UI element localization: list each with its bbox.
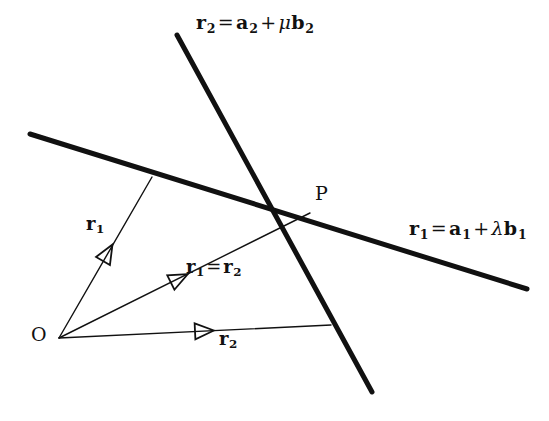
- equation-line1-a-sub: 1: [462, 227, 472, 242]
- diagram-canvas: [0, 0, 549, 421]
- vector-label-r1eq-sub1: 1: [195, 265, 204, 279]
- equation-line1-a: a: [449, 217, 462, 239]
- equation-line2-a: a: [236, 11, 249, 33]
- equation-line2-mu: μ: [278, 11, 291, 33]
- vector-label-r1eq-sym2: r: [223, 256, 232, 277]
- vector-label-r2: r2: [219, 330, 237, 351]
- equation-line2-b: b: [291, 11, 305, 33]
- equation-line1-b-sub: 1: [517, 227, 527, 242]
- vector-label-r1eq-sub2: 2: [233, 265, 242, 279]
- equation-line-r2: r2=a2+μb2: [196, 13, 314, 35]
- equation-line2-equals: =: [216, 11, 236, 33]
- ray-r1: [59, 177, 152, 338]
- vector-line-intersection-diagram: r2=a2+μb2 r1=a1+λb1 P O r1 r1=r2 r2: [0, 0, 549, 421]
- equation-line1-equals: =: [429, 217, 449, 239]
- point-label-O: O: [31, 325, 47, 344]
- equation-line2-b-sub: 2: [305, 21, 315, 36]
- vector-label-r1: r1: [86, 215, 104, 236]
- equation-line1-b: b: [504, 217, 518, 239]
- line-r2: [177, 35, 372, 392]
- vector-label-r1-sub: 1: [95, 222, 104, 236]
- equation-line1-r-sub: 1: [419, 227, 429, 242]
- equation-line2-a-sub: 2: [249, 21, 259, 36]
- vector-label-r1-equals-r2: r1=r2: [186, 258, 242, 279]
- line-r1: [30, 134, 527, 289]
- vector-label-r1eq-equals: =: [204, 256, 223, 277]
- point-label-P: P: [315, 184, 328, 203]
- equation-line2-r-sub: 2: [206, 21, 216, 36]
- equation-line1-plus: +: [471, 217, 491, 239]
- equation-line1-lambda: λ: [491, 217, 503, 239]
- equation-line-r1: r1=a1+λb1: [409, 219, 527, 241]
- equation-line2-plus: +: [258, 11, 278, 33]
- equation-line1-r: r: [409, 217, 419, 239]
- equation-line2-r: r: [196, 11, 206, 33]
- vector-label-r2-sub: 2: [228, 337, 237, 351]
